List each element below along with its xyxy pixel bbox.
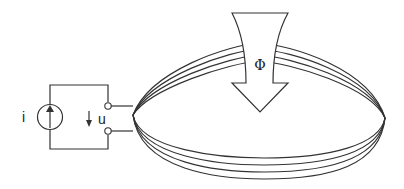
induction-diagram: Φ i <box>0 0 404 189</box>
voltage-label: u <box>98 111 106 127</box>
coil-front <box>133 115 385 179</box>
flux-arrow-icon: Φ <box>232 13 288 112</box>
flux-label: Φ <box>254 57 265 73</box>
current-source-icon <box>38 105 63 130</box>
terminal-top-icon <box>105 103 111 109</box>
current-label: i <box>22 109 25 125</box>
diagram-canvas: Φ i <box>0 0 404 189</box>
terminal-bottom-icon <box>105 128 111 134</box>
voltage-arrow-icon <box>86 111 92 127</box>
wire-top <box>50 85 108 105</box>
wire-bottom <box>50 129 108 149</box>
